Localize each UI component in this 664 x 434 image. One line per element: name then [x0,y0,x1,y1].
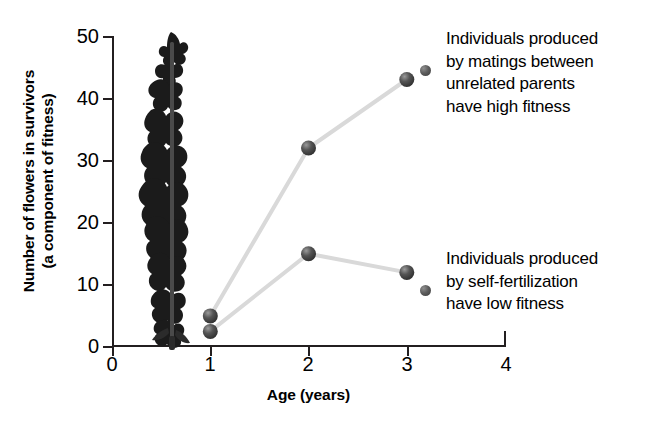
y-tick-label-40: 40 [77,88,99,108]
y-axis-title-line-2: (a component of fitness) [38,70,57,292]
annotation-marker-selfed [420,285,431,296]
series-line-outcrossed [210,80,406,316]
y-axis-title-line-1: Number of flowers in survivors [19,70,38,292]
y-tick-30 [103,160,112,162]
data-point-outcrossed-age-2 [301,141,316,156]
chart-figure: Number of flowers in survivors (a compon… [0,0,664,434]
y-tick-20 [103,222,112,224]
y-axis-title: Number of flowers in survivors (a compon… [8,11,68,351]
data-point-selfed-age-3 [399,265,414,280]
y-tick-10 [103,284,112,286]
data-point-selfed-age-2 [301,246,316,261]
y-tick-label-30: 30 [77,150,99,170]
x-tick-label-0: 0 [106,354,117,374]
x-tick-label-3: 3 [401,354,412,374]
annotation-outcrossed: Individuals produced by matings between … [446,28,660,118]
y-tick-50 [103,36,112,38]
y-tick-40 [103,98,112,100]
y-tick-label-0: 0 [88,336,99,356]
y-tick-0 [103,346,112,348]
annotation-marker-outcrossed [420,65,431,76]
x-tick-label-2: 2 [302,354,313,374]
x-tick-label-1: 1 [204,354,215,374]
y-tick-label-10: 10 [77,274,99,294]
y-tick-label-20: 20 [77,212,99,232]
x-tick-label-4: 4 [500,354,511,374]
data-point-outcrossed-age-3 [399,72,414,87]
x-axis-title: Age (years) [112,386,505,404]
data-point-outcrossed-age-1 [203,308,218,323]
data-point-selfed-age-1 [203,324,218,339]
annotation-selfed: Individuals produced by self-fertilizati… [446,248,660,316]
y-tick-label-50: 50 [77,26,99,46]
